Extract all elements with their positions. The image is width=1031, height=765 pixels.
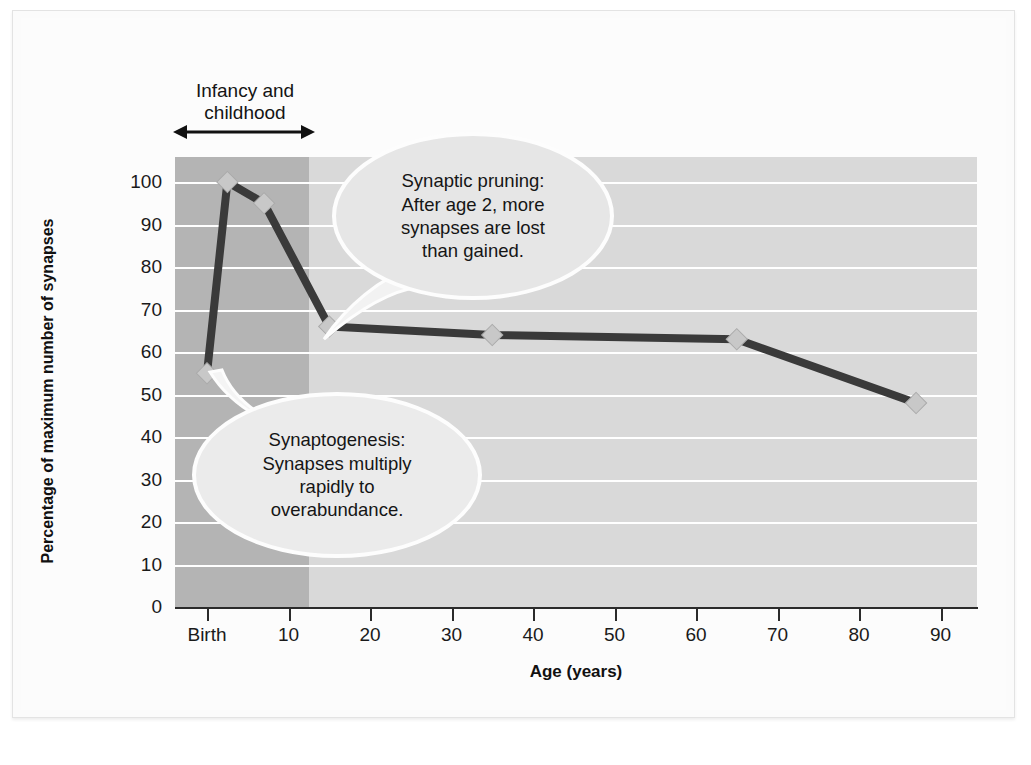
y-axis-tick-label: 70	[141, 299, 162, 321]
x-axis-tick	[533, 609, 535, 621]
y-axis-tick-label: 40	[141, 426, 162, 448]
x-axis-tick-label: 80	[848, 624, 869, 646]
y-axis-tick-label: 10	[141, 554, 162, 576]
x-axis-tick-label: 60	[685, 624, 706, 646]
chart-stage: 0102030405060708090100 Percentage of max…	[0, 0, 1031, 765]
y-axis-tick-label: 0	[151, 596, 162, 618]
x-axis-tick	[207, 609, 209, 621]
callout-synaptic-pruning: Synaptic pruning: After age 2, more syna…	[332, 132, 614, 300]
x-axis-tick-label: 20	[359, 624, 380, 646]
y-axis-tick-label: 50	[141, 384, 162, 406]
x-axis-tick	[778, 609, 780, 621]
x-axis-tick-label: Birth	[187, 624, 226, 646]
callout-synaptic-pruning-text: Synaptic pruning: After age 2, more syna…	[387, 169, 559, 263]
x-axis-tick	[696, 609, 698, 621]
y-axis-tick-label: 60	[141, 341, 162, 363]
gridline	[175, 352, 977, 354]
gridline	[175, 310, 977, 312]
x-axis-tick	[452, 609, 454, 621]
infancy-and-childhood-label: Infancy and childhood	[120, 80, 370, 125]
y-axis-tick-label: 100	[130, 171, 162, 193]
y-axis-tick-label: 30	[141, 469, 162, 491]
infancy-double-arrow-icon	[173, 122, 315, 142]
x-axis-tick	[370, 609, 372, 621]
x-axis-tick-label: 30	[441, 624, 462, 646]
x-axis-tick-label: 10	[278, 624, 299, 646]
y-axis-tick-label: 90	[141, 214, 162, 236]
y-axis-tick-label: 80	[141, 256, 162, 278]
x-axis-line	[175, 607, 978, 609]
gridline	[175, 565, 977, 567]
x-axis-tick	[859, 609, 861, 621]
x-axis-tick-label: 70	[767, 624, 788, 646]
x-axis-tick-label: 90	[930, 624, 951, 646]
x-axis-title: Age (years)	[175, 662, 977, 682]
x-axis-tick-label: 40	[522, 624, 543, 646]
x-axis-tick	[615, 609, 617, 621]
x-axis-tick	[289, 609, 291, 621]
callout-synaptogenesis: Synaptogenesis: Synapses multiply rapidl…	[192, 392, 482, 558]
y-axis-tick-label: 20	[141, 511, 162, 533]
callout-synaptogenesis-text: Synaptogenesis: Synapses multiply rapidl…	[248, 428, 425, 522]
x-axis-tick	[941, 609, 943, 621]
x-axis-tick-label: 50	[604, 624, 625, 646]
y-axis-title: Percentage of maximum number of synapses	[39, 191, 57, 591]
